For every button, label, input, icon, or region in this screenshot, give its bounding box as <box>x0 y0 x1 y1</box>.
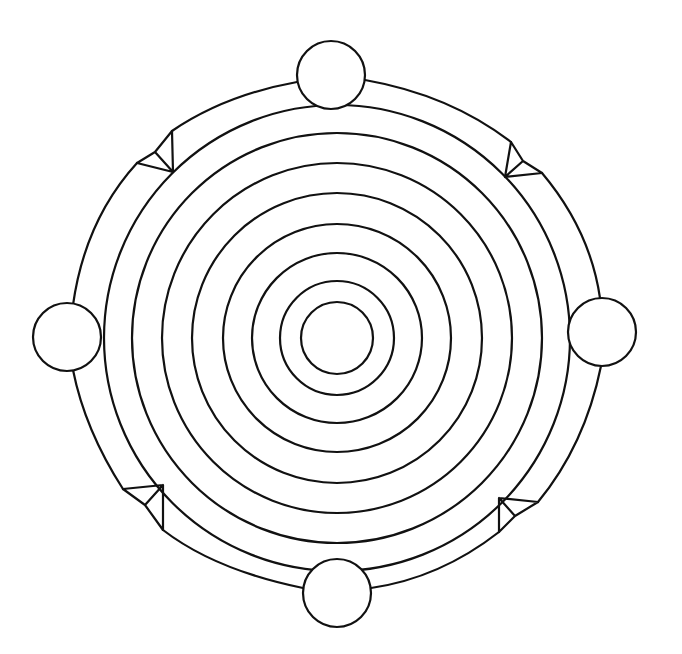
ring-4 <box>223 224 451 452</box>
outer-band-arc-right-lower <box>538 366 601 502</box>
node-top <box>297 41 365 109</box>
outer-band-arc-bottom-left <box>163 530 303 588</box>
ring-5 <box>192 193 482 483</box>
ring-7 <box>132 133 542 543</box>
notch-bottom-right <box>499 498 538 532</box>
concentric-diagram <box>0 0 682 654</box>
notch-top-left <box>137 131 173 172</box>
node-left <box>33 303 101 371</box>
node-bottom <box>303 559 371 627</box>
ring-6 <box>162 163 512 513</box>
notch-bottom-left <box>123 485 163 530</box>
ring-3 <box>252 253 422 423</box>
diagram-canvas <box>0 0 682 654</box>
ring-2 <box>280 281 394 395</box>
notch-top-right <box>505 142 542 177</box>
outer-band-arc-left-lower <box>73 370 123 489</box>
ring-1 <box>301 302 373 374</box>
outer-band-arc-top-left <box>172 82 297 131</box>
outer-band-arc-right-upper <box>542 173 600 298</box>
outer-band-arc-bottom-right <box>371 532 499 588</box>
node-right <box>568 298 636 366</box>
